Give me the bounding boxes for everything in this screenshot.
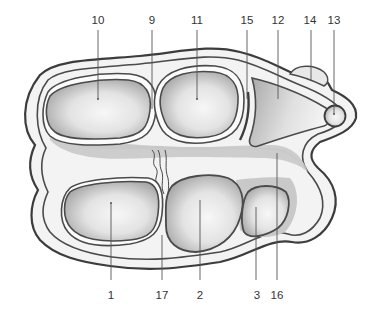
label-15: 15 xyxy=(241,14,254,26)
bone-13 xyxy=(325,106,346,127)
label-10: 10 xyxy=(92,14,105,26)
label-14: 14 xyxy=(304,14,317,26)
bone-11-core xyxy=(160,72,238,138)
label-12: 12 xyxy=(272,14,285,26)
label-17: 17 xyxy=(156,289,169,301)
label-11: 11 xyxy=(191,14,203,26)
label-3: 3 xyxy=(254,289,260,301)
label-2: 2 xyxy=(197,289,203,301)
anatomical-cross-section-diagram: 10 9 11 15 12 14 13 1 17 2 3 16 xyxy=(0,0,378,325)
label-9: 9 xyxy=(149,14,155,26)
label-13: 13 xyxy=(328,14,341,26)
label-1: 1 xyxy=(108,289,114,301)
label-16: 16 xyxy=(271,289,284,301)
bone-1-core xyxy=(65,181,159,240)
